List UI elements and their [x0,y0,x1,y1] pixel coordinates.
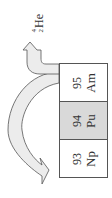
element-symbol: Am [84,64,97,102]
element-box-pu: 94 Pu [59,101,108,140]
element-box-np: 93 Np [59,139,108,178]
atomic-number: 95 [71,64,84,102]
element-symbol: Pu [84,102,97,140]
element-label-pu: 94 Pu [71,102,97,140]
element-label-np: 93 Np [71,140,97,178]
element-box-am: 95 Am [59,63,108,102]
atomic-number: 94 [71,102,84,140]
curved-arrow-am-to-np [8,72,59,184]
element-label-am: 95 Am [71,64,97,102]
element-symbol: Np [84,140,97,178]
atomic-number: 2 [38,29,45,35]
elbow-arrow-am-to-he [23,42,59,74]
helium-symbol: He [32,14,47,28]
helium-label: 4 2 He [31,7,49,35]
atomic-number: 93 [71,140,84,178]
